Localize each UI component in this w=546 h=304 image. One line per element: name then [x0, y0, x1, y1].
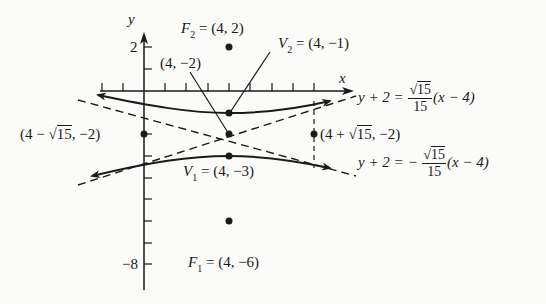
- y-tick-label-2: 2: [130, 40, 138, 55]
- y-tick-label-neg8: −8: [122, 257, 138, 272]
- vertex-v1-point: [226, 153, 233, 160]
- vertex-v1-label: V1 = (4, −3): [183, 164, 254, 179]
- left-point-label: (4 − √15, −2): [20, 127, 100, 142]
- left-point: [141, 131, 148, 138]
- y-axis: [140, 32, 152, 290]
- v2-pointer: [231, 52, 270, 111]
- asymptote-upper-equation: y + 2 = √1515(x − 4): [358, 83, 475, 114]
- focus-f1-point: [226, 218, 233, 225]
- focus-f1-label: F1 = (4, −6): [188, 255, 259, 270]
- center-point: [226, 131, 233, 138]
- focus-f2-name: F: [181, 20, 190, 36]
- asymptote-lower-equation: y + 2 = − √1515(x − 4): [358, 148, 489, 179]
- x-axis-label: x: [339, 71, 346, 86]
- center-pointer: [190, 72, 227, 131]
- vertex-v2-point: [226, 110, 233, 117]
- x-axis: [100, 83, 354, 95]
- focus-f2-label: F2 = (4, 2): [181, 21, 244, 36]
- y-axis-label: y: [128, 12, 135, 27]
- right-point: [311, 131, 318, 138]
- right-point-label: (4 + √15, −2): [320, 127, 400, 142]
- focus-f2-point: [226, 44, 233, 51]
- center-label: (4, −2): [160, 56, 201, 71]
- upper-branch-right: [229, 101, 330, 113]
- vertex-v2-label: V2 = (4, −1): [278, 36, 349, 51]
